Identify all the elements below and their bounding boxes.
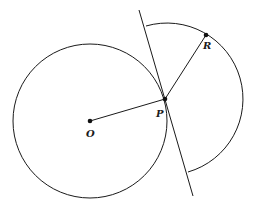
point-P-marker [163,97,168,102]
tangent-line [139,10,193,196]
point-R-marker [204,33,209,38]
geometry-diagram: O P R [0,0,254,209]
point-O-marker [88,119,93,124]
label-R: R [202,40,211,51]
diagram-canvas: O P R [0,0,254,209]
segment-OP [90,99,165,121]
arc-centered-P [146,23,243,172]
label-O: O [86,128,95,139]
segment-PR [165,35,206,99]
label-P: P [155,108,164,119]
